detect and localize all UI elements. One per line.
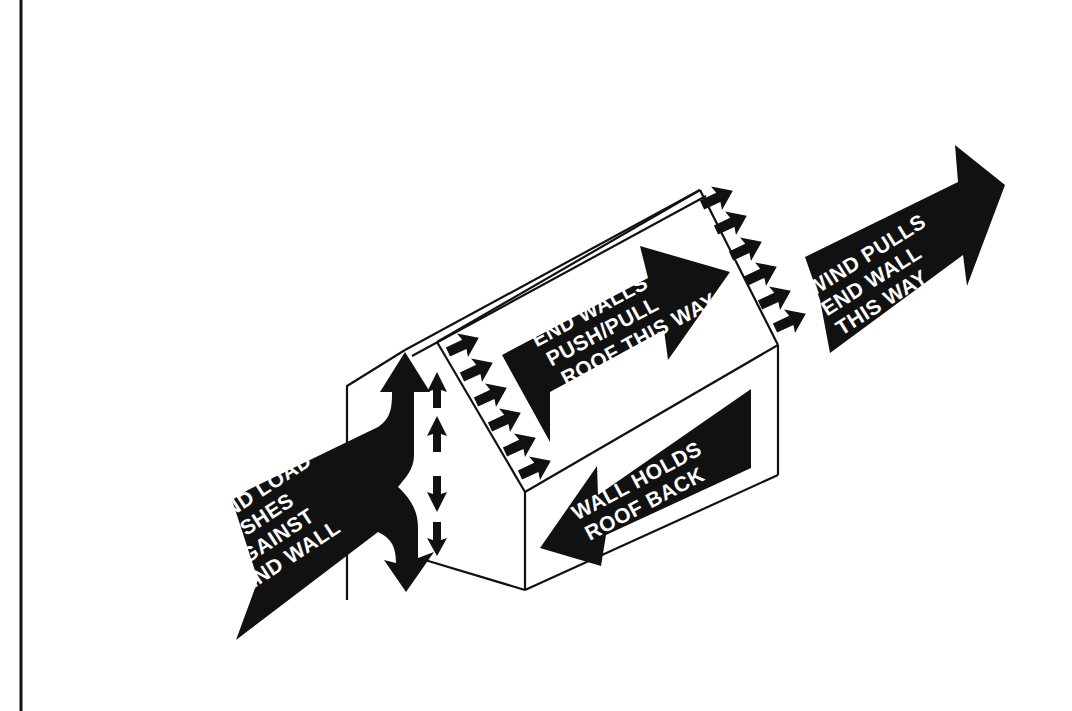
wind-load-arrow: WIND LOAD PUSHES AGAINST END WALL [197,352,434,640]
down-arrow-icon [427,522,447,556]
down-arrow-icon [427,476,447,512]
up-arrow-icon [427,372,447,408]
wind-load-diagram: WIND LOAD PUSHES AGAINST END WALL [0,0,1072,711]
up-arrow-icon [427,416,447,452]
wall-holds-arrow: WALL HOLDS ROOF BACK [540,389,751,566]
back-gable-pull-arrows [697,179,812,340]
wind-pulls-arrow: WIND PULLS END WALL THIS WAY [802,145,1005,353]
end-walls-arrow: END WALLS PUSH/PULL ROOF THIS WAY [502,246,730,442]
vertical-force-arrows [427,372,447,556]
